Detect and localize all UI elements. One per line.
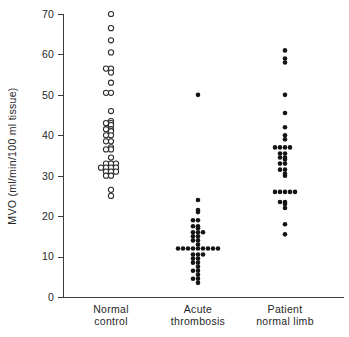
data-point	[196, 246, 201, 251]
data-point	[283, 161, 288, 166]
data-point	[201, 252, 206, 257]
data-point	[191, 218, 196, 223]
x-category-label: thrombosis	[171, 315, 225, 327]
data-point	[196, 268, 201, 273]
data-point	[108, 187, 113, 192]
data-point	[103, 66, 108, 71]
data-point	[283, 232, 288, 237]
series-1	[98, 11, 118, 198]
data-point	[108, 108, 113, 113]
data-point	[191, 224, 196, 229]
data-point	[196, 198, 201, 203]
data-point	[191, 277, 196, 282]
data-point	[196, 238, 201, 243]
data-point	[196, 264, 201, 269]
data-point	[103, 139, 108, 144]
y-tick-label: 30	[42, 170, 54, 182]
data-point	[278, 145, 283, 150]
scatter-plot-canvas: 010203040506070 MVO (ml/min/100 ml tissu…	[0, 0, 349, 337]
data-point	[108, 133, 113, 138]
data-point	[288, 145, 293, 150]
data-point	[191, 252, 196, 257]
data-point	[108, 90, 113, 95]
data-point	[191, 256, 196, 261]
data-point	[108, 147, 113, 152]
data-point	[283, 202, 288, 207]
data-point	[108, 50, 113, 55]
data-point	[108, 193, 113, 198]
data-point	[108, 11, 113, 16]
y-axis-title: MVO (ml/min/100 ml tissue)	[6, 87, 18, 224]
data-point	[103, 133, 108, 138]
data-point	[196, 277, 201, 282]
data-point	[196, 260, 201, 265]
data-points-group	[98, 11, 297, 285]
series-3	[273, 48, 298, 237]
data-point	[278, 151, 283, 156]
data-point	[191, 230, 196, 235]
data-point	[283, 222, 288, 227]
data-point	[278, 190, 283, 195]
data-point	[196, 226, 201, 231]
data-point	[103, 147, 108, 152]
data-point	[196, 93, 201, 98]
data-point	[283, 133, 288, 138]
y-tick-label: 10	[42, 250, 54, 262]
data-point	[191, 260, 196, 265]
data-point	[103, 121, 108, 126]
data-point	[98, 165, 103, 170]
y-tick-label: 40	[42, 129, 54, 141]
data-point	[283, 60, 288, 65]
data-point	[283, 151, 288, 156]
data-point	[103, 127, 108, 132]
y-tick-label: 0	[48, 291, 54, 303]
data-point	[191, 238, 196, 243]
data-point	[283, 56, 288, 61]
data-point	[196, 272, 201, 277]
data-point	[278, 200, 283, 205]
data-point	[201, 246, 206, 251]
x-category-label: Patient	[268, 303, 303, 315]
data-point	[283, 173, 288, 178]
y-axis-label-group: MVO (ml/min/100 ml tissue)	[6, 87, 18, 224]
data-point	[196, 256, 201, 261]
data-point	[181, 246, 186, 251]
data-point	[283, 206, 288, 211]
data-point	[283, 137, 288, 142]
y-tick-label: 50	[42, 89, 54, 101]
data-point	[108, 70, 113, 75]
category-labels-group: NormalcontrolAcutethrombosisPatientnorma…	[93, 303, 314, 327]
data-point	[283, 125, 288, 130]
data-point	[283, 145, 288, 150]
data-point	[191, 268, 196, 273]
data-point	[196, 234, 201, 239]
data-point	[196, 281, 201, 286]
data-point	[103, 90, 108, 95]
data-point	[108, 26, 113, 31]
data-point	[108, 173, 113, 178]
x-category-label: Normal	[93, 303, 129, 315]
data-point	[278, 155, 283, 160]
data-point	[201, 230, 206, 235]
data-point	[211, 246, 216, 251]
data-point	[283, 48, 288, 53]
data-point	[196, 210, 201, 215]
y-tick-group: 010203040506070	[42, 8, 64, 303]
data-point	[108, 139, 113, 144]
data-point	[196, 230, 201, 235]
data-point	[206, 246, 211, 251]
data-point	[283, 93, 288, 98]
data-point	[216, 246, 221, 251]
data-point	[283, 167, 288, 172]
data-point	[103, 173, 108, 178]
data-point	[108, 38, 113, 43]
y-tick-label: 70	[42, 8, 54, 20]
x-category-label: control	[94, 315, 128, 327]
y-tick-label: 60	[42, 48, 54, 60]
data-point	[196, 218, 201, 223]
data-point	[186, 246, 191, 251]
data-point	[273, 145, 278, 150]
data-point	[196, 252, 201, 257]
series-2	[176, 93, 221, 286]
x-category-label: Acute	[184, 303, 212, 315]
